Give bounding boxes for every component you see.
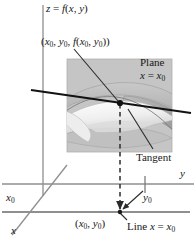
figure-tangent-line-diagram: z = f(x, y) (x0, y0, f(x0, y0)) Plane x … — [0, 0, 196, 244]
label-point-3d: (x0, y0, f(x0, y0)) — [41, 36, 110, 48]
label-line-equation: Line x = x0 — [127, 221, 175, 233]
label-plane-equation: x = x0 — [140, 70, 165, 82]
label-point-2d: (x0, y0) — [75, 218, 105, 230]
label-plane-word: Plane — [140, 57, 164, 69]
label-surface-equation: z = f(x, y) — [46, 3, 88, 15]
label-x-axis: x — [11, 225, 16, 237]
label-y-axis: y — [180, 168, 185, 180]
leader-y0 — [123, 191, 143, 209]
label-x0-tick: x0 — [6, 192, 15, 204]
label-y0-tick: y0 — [143, 192, 152, 204]
x-axis-line — [12, 165, 67, 235]
label-tangent: Tangent — [136, 152, 171, 164]
foot-point-dot — [118, 210, 122, 214]
